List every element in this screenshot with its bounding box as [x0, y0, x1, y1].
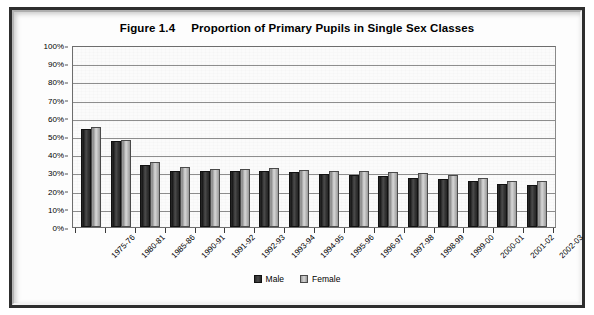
x-axis-category-label: 1992-93 — [259, 233, 286, 260]
bar-female — [121, 140, 131, 227]
figure-screenshot: Figure 1.4Proportion of Primary Pupils i… — [0, 0, 594, 315]
legend-label: Male — [266, 274, 284, 284]
x-axis-category-label: 1996-97 — [379, 233, 406, 260]
x-axis-category-label: 1980-81 — [140, 233, 167, 260]
bar-female — [448, 175, 458, 227]
x-axis-category-label: 1997-98 — [409, 233, 436, 260]
figure-caption: Proportion of Primary Pupils in Single S… — [191, 22, 474, 34]
bar-male — [230, 171, 240, 227]
y-axis-tick-label: 50% — [48, 133, 64, 142]
x-axis-category-label: 1990-91 — [200, 233, 227, 260]
bar-group — [136, 47, 166, 227]
bar-male — [497, 184, 507, 227]
bar-female — [91, 127, 101, 227]
y-axis-tick-mark — [65, 210, 68, 211]
bar-group — [195, 47, 225, 227]
y-axis-tick-mark — [65, 137, 68, 138]
figure-number: Figure 1.4 — [120, 22, 175, 34]
y-axis-tick-label: 60% — [48, 114, 64, 123]
bar-male — [408, 178, 418, 227]
legend-label: Female — [312, 274, 340, 284]
bar-group — [493, 47, 523, 227]
y-axis-tick-label: 30% — [48, 169, 64, 178]
y-axis-tick-mark — [65, 46, 68, 47]
bar-male — [200, 171, 210, 227]
y-axis-tick-label: 70% — [48, 96, 64, 105]
bar-female — [240, 169, 250, 227]
bar-male — [111, 141, 121, 227]
bar-male — [140, 165, 150, 227]
bar-male — [378, 176, 388, 227]
plot-wrapper: 0%10%20%30%40%50%60%70%80%90%100% 1975-7… — [34, 46, 560, 244]
plot-area — [72, 46, 556, 228]
x-axis-category-label: 1991-92 — [229, 233, 256, 260]
x-axis-category-label: 1998-99 — [439, 233, 466, 260]
bar-male — [527, 185, 537, 227]
bar-female — [210, 169, 220, 227]
y-axis-tick-label: 20% — [48, 187, 64, 196]
bar-group — [76, 47, 106, 227]
y-axis-tick-mark — [65, 228, 68, 229]
x-axis-labels: 1975-761980-811985-861990-911991-921992-… — [72, 230, 556, 276]
bar-female — [388, 172, 398, 227]
bar-male — [468, 181, 478, 227]
bar-group — [255, 47, 285, 227]
y-axis-tick-label: 10% — [48, 205, 64, 214]
legend-item-female: Female — [300, 274, 340, 284]
bar-male — [259, 171, 269, 227]
bar-group — [522, 47, 552, 227]
bars-layer — [73, 47, 555, 227]
bar-group — [344, 47, 374, 227]
y-axis-tick-label: 90% — [48, 60, 64, 69]
legend-item-male: Male — [254, 274, 284, 284]
bar-male — [81, 129, 91, 227]
y-axis-tick-mark — [65, 82, 68, 83]
bar-male — [349, 175, 359, 227]
y-axis-tick-mark — [65, 101, 68, 102]
bar-group — [314, 47, 344, 227]
chart-title: Figure 1.4Proportion of Primary Pupils i… — [14, 22, 580, 34]
bar-female — [418, 173, 428, 227]
figure-panel: Figure 1.4Proportion of Primary Pupils i… — [12, 10, 582, 305]
bar-group — [463, 47, 493, 227]
bar-male — [319, 174, 329, 227]
y-axis-tick-mark — [65, 173, 68, 174]
bar-group — [225, 47, 255, 227]
x-axis-category-label: 1993-94 — [289, 233, 316, 260]
bar-female — [269, 168, 279, 227]
female-swatch — [300, 275, 308, 283]
x-axis-category-label: 1995-96 — [349, 233, 376, 260]
x-axis-category-label: 2002-03 — [558, 233, 585, 260]
bar-female — [299, 170, 309, 227]
bar-female — [180, 167, 190, 227]
bar-group — [403, 47, 433, 227]
x-axis-category-label: 1985-86 — [170, 233, 197, 260]
y-axis-tick-mark — [65, 192, 68, 193]
y-axis-tick-mark — [65, 64, 68, 65]
x-axis-category-label: 1975-76 — [110, 233, 137, 260]
bar-female — [478, 178, 488, 227]
y-axis-tick-label: 40% — [48, 151, 64, 160]
bar-female — [329, 171, 339, 227]
y-axis-tick-label: 80% — [48, 78, 64, 87]
bar-group — [284, 47, 314, 227]
y-axis-tick-mark — [65, 119, 68, 120]
y-axis: 0%10%20%30%40%50%60%70%80%90%100% — [34, 46, 68, 228]
y-axis-tick-label: 0% — [52, 224, 64, 233]
figure-outer-frame: Figure 1.4Proportion of Primary Pupils i… — [9, 7, 585, 308]
x-axis-category-label: 2000-01 — [498, 233, 525, 260]
chart-legend: MaleFemale — [14, 274, 580, 284]
bar-female — [150, 162, 160, 227]
bar-female — [537, 181, 547, 227]
bar-female — [507, 181, 517, 227]
male-swatch — [254, 275, 262, 283]
bar-male — [170, 171, 180, 227]
y-axis-tick-mark — [65, 155, 68, 156]
x-axis-category-label: 1999-00 — [468, 233, 495, 260]
bar-female — [359, 171, 369, 227]
bar-male — [438, 179, 448, 227]
bar-group — [374, 47, 404, 227]
x-axis-category-label: 1994-95 — [319, 233, 346, 260]
bar-group — [433, 47, 463, 227]
bar-male — [289, 172, 299, 227]
